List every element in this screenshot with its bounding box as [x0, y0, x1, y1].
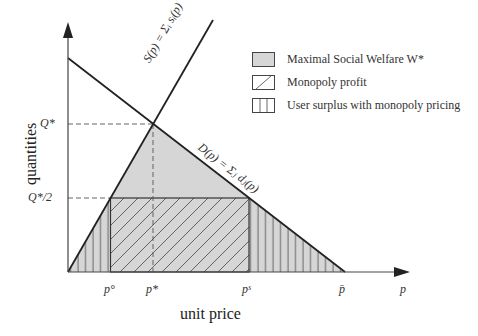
x-tick-p-star: p*: [146, 282, 158, 297]
x-axis-title: unit price: [180, 305, 241, 323]
x-axis-symbol: p: [400, 282, 406, 297]
monopoly-profit-area: [111, 198, 250, 272]
y-axis-arrow-icon: [63, 22, 73, 38]
legend-label: Maximal Social Welfare W*: [287, 52, 424, 67]
x-tick-p-o: p°: [104, 282, 115, 297]
legend-label: Monopoly profit: [287, 75, 367, 90]
x-tick-p-s: pˢ: [242, 282, 251, 297]
y-tick-q-half: Q*/2: [28, 190, 52, 205]
vertical-hatch-swatch-icon: [252, 98, 275, 113]
x-tick-p-bar: p̄: [339, 282, 345, 297]
x-axis-arrow-icon: [394, 267, 410, 277]
gray-fill-swatch-icon: [252, 52, 275, 67]
y-axis-title: quantities: [22, 123, 40, 185]
y-tick-q-star: Q*: [40, 116, 55, 131]
legend-label: User surplus with monopoly pricing: [287, 98, 460, 113]
diagonal-hatch-swatch-icon: [252, 75, 275, 90]
